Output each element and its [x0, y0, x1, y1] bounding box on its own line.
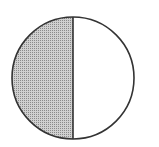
- unshaded-right-half: [73, 17, 134, 139]
- shaded-left-half: [12, 17, 73, 139]
- fraction-circle-diagram: [0, 0, 159, 147]
